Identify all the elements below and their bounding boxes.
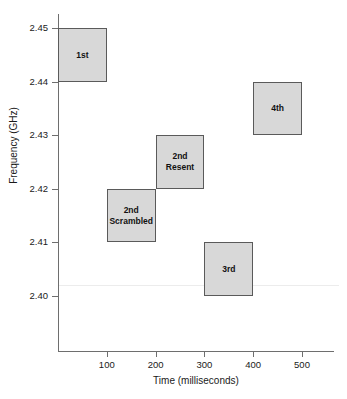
reference-line — [59, 285, 339, 286]
data-box: 1st — [58, 28, 107, 82]
x-tick-mark — [302, 352, 303, 357]
y-axis-title: Frequency (GHz) — [8, 86, 19, 206]
x-tick-mark — [107, 352, 108, 357]
x-tick-label: 300 — [184, 360, 224, 370]
data-box: 2nd Resent — [156, 135, 205, 189]
y-tick-mark — [52, 242, 58, 243]
data-box: 3rd — [204, 242, 253, 296]
x-axis-title: Time (milliseconds) — [58, 375, 334, 386]
x-tick-mark — [253, 352, 254, 357]
x-tick-label: 200 — [136, 360, 176, 370]
data-box: 2nd Scrambled — [107, 189, 156, 243]
y-tick-mark — [52, 189, 58, 190]
data-box-label: 3rd — [222, 264, 235, 275]
x-axis-line — [58, 351, 334, 352]
data-box-label: 1st — [76, 50, 88, 61]
frequency-hopping-chart: 2.452.442.432.422.412.40 100200300400500… — [0, 0, 347, 399]
y-tick-label: 2.41 — [30, 237, 49, 247]
y-tick-label: 2.44 — [30, 77, 49, 87]
y-tick-mark — [52, 82, 58, 83]
x-tick-mark — [156, 352, 157, 357]
data-box-label: 2nd Resent — [166, 151, 194, 172]
y-tick-label: 2.43 — [30, 130, 49, 140]
x-tick-label: 500 — [282, 360, 322, 370]
x-tick-label: 400 — [233, 360, 273, 370]
data-box-label: 4th — [271, 103, 284, 114]
y-tick-mark — [52, 296, 58, 297]
x-tick-mark — [204, 352, 205, 357]
y-tick-label: 2.45 — [30, 23, 49, 33]
y-tick-label: 2.40 — [30, 291, 49, 301]
data-box: 4th — [253, 82, 302, 136]
y-tick-mark — [52, 135, 58, 136]
x-tick-label: 100 — [87, 360, 127, 370]
y-tick-label: 2.42 — [30, 184, 49, 194]
data-box-label: 2nd Scrambled — [109, 205, 152, 226]
